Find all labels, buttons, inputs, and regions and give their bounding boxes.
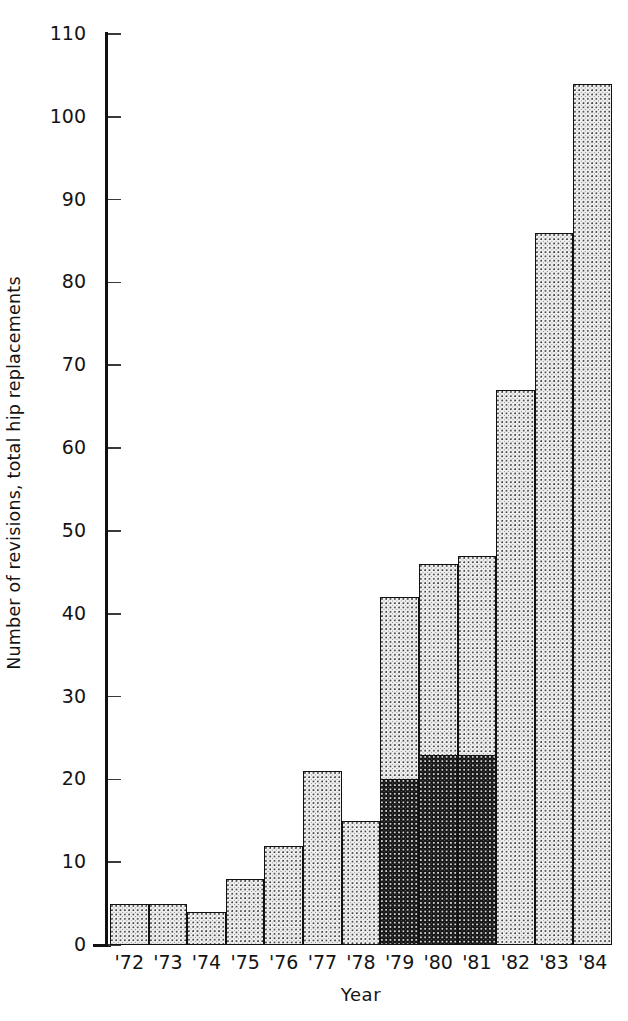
bar-segment-dark [419, 755, 458, 945]
bar-segment-light [149, 904, 188, 945]
x-tick-label: '82 [496, 952, 535, 973]
bar-1978 [342, 821, 381, 945]
x-tick-label: '81 [458, 952, 497, 973]
bar-segment-dark [458, 755, 497, 945]
y-tick-label: 30 [22, 687, 86, 706]
x-axis-ticks: '72'73'74'75'76'77'78'79'80'81'82'83'84 [110, 952, 612, 982]
y-tick-label: 90 [22, 190, 86, 209]
x-tick-label: '79 [380, 952, 419, 973]
bar-1980 [419, 564, 458, 945]
bar-segment-light [187, 912, 226, 945]
x-tick-label: '74 [187, 952, 226, 973]
bar-segment-light [303, 771, 342, 945]
y-tick-label: 20 [22, 769, 86, 788]
bar-1976 [264, 846, 303, 945]
y-axis-line [105, 32, 108, 947]
bar-1974 [187, 912, 226, 945]
x-tick-label: '80 [419, 952, 458, 973]
x-axis-origin-line [93, 944, 111, 947]
bar-segment-light [226, 879, 265, 945]
x-axis-title: Year [110, 984, 612, 1005]
bar-1984 [573, 84, 612, 945]
bar-segment-dark [380, 779, 419, 945]
x-tick-label: '77 [303, 952, 342, 973]
x-tick-label: '75 [226, 952, 265, 973]
x-tick-label: '83 [535, 952, 574, 973]
x-tick-label: '73 [149, 952, 188, 973]
bar-1983 [535, 233, 574, 945]
y-tick-label: 100 [22, 107, 86, 126]
y-tick-label: 60 [22, 438, 86, 457]
y-axis-title: Number of revisions, total hip replaceme… [0, 0, 28, 945]
bar-1972 [110, 904, 149, 945]
bar-segment-light [110, 904, 149, 945]
x-tick-label: '84 [573, 952, 612, 973]
bar-1982 [496, 390, 535, 945]
bar-segment-light [535, 233, 574, 945]
bar-chart-figure: Number of revisions, total hip replaceme… [0, 0, 628, 1021]
bar-segment-light [264, 846, 303, 945]
bar-segment-light [496, 390, 535, 945]
bar-1973 [149, 904, 188, 945]
y-tick-label: 10 [22, 852, 86, 871]
bar-segment-light [342, 821, 381, 945]
x-tick-label: '78 [342, 952, 381, 973]
x-tick-label: '76 [264, 952, 303, 973]
bar-segment-light [573, 84, 612, 945]
y-tick-label: 80 [22, 272, 86, 291]
y-axis-title-text: Number of revisions, total hip replaceme… [4, 276, 24, 669]
bar-1977 [303, 771, 342, 945]
bar-1979 [380, 597, 419, 945]
bar-1975 [226, 879, 265, 945]
bar-1981 [458, 556, 497, 945]
y-tick-label: 50 [22, 521, 86, 540]
x-tick-label: '72 [110, 952, 149, 973]
y-tick-label: 40 [22, 604, 86, 623]
y-tick-label: 70 [22, 355, 86, 374]
y-tick-label: 0 [22, 935, 86, 954]
y-tick-label: 110 [22, 24, 86, 43]
plot-area [110, 34, 612, 945]
